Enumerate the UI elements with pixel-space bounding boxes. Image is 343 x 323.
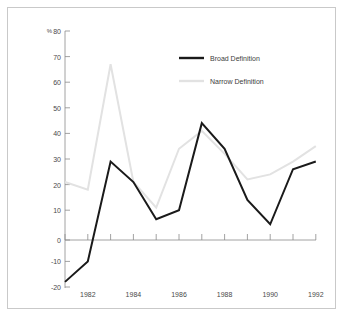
series-line-broad-definition: [65, 123, 316, 282]
legend-label-broad-definition: Broad Definition: [210, 55, 260, 62]
series-line-narrow-definition: [65, 64, 316, 207]
line-chart-plot: % 80 70 60 50 40 30 20 10 0 -10 -20 1982…: [0, 0, 343, 323]
x-tick-label-1984: 1984: [126, 291, 142, 298]
legend-label-narrow-definition: Narrow Definition: [210, 78, 264, 85]
y-tick-label-70: 70: [53, 54, 61, 61]
y-tick-label-10: 10: [53, 207, 61, 214]
y-tick-label-20: 20: [53, 182, 61, 189]
x-tick-label-1992: 1992: [308, 291, 324, 298]
y-axis-unit-label: %: [47, 28, 53, 34]
y-tick-label-60: 60: [53, 79, 61, 86]
y-tick-label-80: 80: [53, 28, 61, 35]
x-tick-label-1988: 1988: [217, 291, 233, 298]
chart-legend: Broad Definition Narrow Definition: [179, 55, 264, 85]
y-tick-label-0: 0: [57, 237, 61, 244]
chart-figure: % 80 70 60 50 40 30 20 10 0 -10 -20 1982…: [0, 0, 343, 323]
x-tick-label-1990: 1990: [262, 291, 278, 298]
y-tick-label-neg10: -10: [51, 258, 61, 265]
x-tick-marks: [65, 234, 316, 240]
y-tick-label-40: 40: [53, 130, 61, 137]
y-tick-marks: [65, 31, 70, 287]
x-tick-label-1982: 1982: [80, 291, 96, 298]
y-tick-label-30: 30: [53, 156, 61, 163]
x-tick-label-1986: 1986: [171, 291, 187, 298]
y-tick-label-neg20: -20: [51, 284, 61, 291]
y-tick-label-50: 50: [53, 105, 61, 112]
